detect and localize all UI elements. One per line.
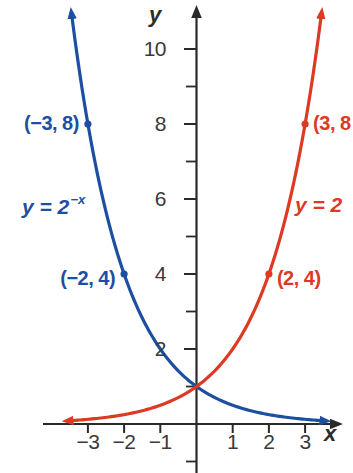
data-point bbox=[302, 120, 309, 127]
data-point bbox=[121, 270, 128, 277]
exponential-functions-graph: y x y = 2−x y = 2 (−3, 8)(−2, 4)(2, 4)(3… bbox=[0, 0, 353, 473]
data-point bbox=[84, 120, 91, 127]
data-point bbox=[265, 270, 272, 277]
plot-canvas bbox=[0, 0, 353, 473]
